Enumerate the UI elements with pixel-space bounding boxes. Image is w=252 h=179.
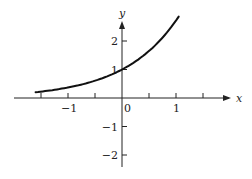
axes: x y (14, 7, 243, 167)
y-axis-arrow-icon (119, 21, 125, 29)
x-tick-label: 1 (173, 102, 180, 115)
x-axis-arrow-icon (223, 95, 231, 101)
y-tick-label: 2 (111, 35, 118, 48)
exponential-curve (36, 17, 179, 93)
exponential-graph: x y −10121−1−2 (0, 0, 252, 179)
x-tick-label: 0 (124, 102, 131, 115)
y-axis-label: y (118, 7, 126, 20)
y-tick-label: −1 (102, 121, 118, 134)
x-axis-label: x (236, 92, 243, 105)
x-tick-label: −1 (61, 102, 77, 115)
y-tick-label: −2 (102, 149, 118, 162)
